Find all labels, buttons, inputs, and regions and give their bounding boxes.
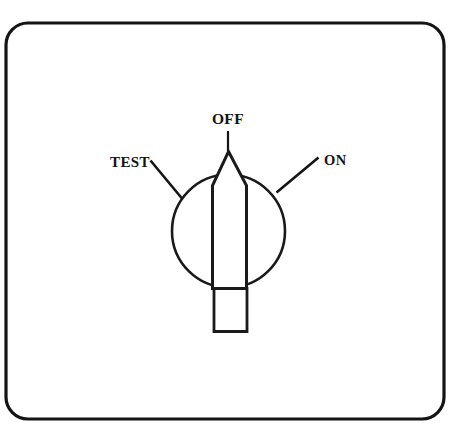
label-on: ON bbox=[324, 152, 347, 168]
label-off: OFF bbox=[212, 110, 244, 127]
figure-root: TEST OFF ON bbox=[0, 0, 454, 428]
label-test: TEST bbox=[110, 154, 150, 170]
knob-bottom-tab bbox=[214, 289, 247, 332]
rotary-switch-diagram: TEST OFF ON bbox=[0, 0, 454, 428]
